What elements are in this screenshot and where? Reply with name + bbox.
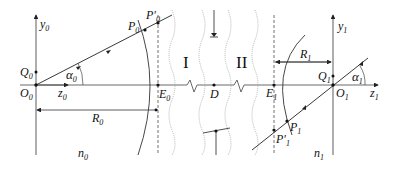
label-O0: O0 (20, 86, 33, 102)
P1-point (285, 119, 288, 122)
ray-image-side (252, 58, 368, 150)
Q0-point (35, 71, 38, 74)
P0-point (143, 28, 146, 31)
label-E0: E0 (158, 87, 170, 103)
label-z0: z0 (57, 86, 67, 102)
optical-diagram: y0 Q0 O0 z0 α0 P0 P′0 E0 R0 n0 I II D E1… (0, 0, 396, 170)
label-z1: z1 (369, 86, 379, 102)
label-alpha0: α0 (66, 67, 77, 84)
stop-arrowhead-top (211, 33, 217, 37)
wavy-boundaries (169, 10, 258, 155)
R0-end-point (155, 109, 158, 112)
ray-arrow-2 (106, 50, 111, 54)
stop-point-bottom (214, 129, 217, 132)
label-P1: P1 (289, 120, 301, 136)
label-R1: R1 (299, 47, 311, 63)
label-y1: y1 (337, 19, 347, 35)
Q1-point (332, 75, 335, 78)
label-region-I: I (183, 53, 189, 72)
ray-arrow-3 (302, 105, 306, 110)
entrance-sphere (138, 20, 150, 155)
label-R0: R0 (91, 111, 103, 127)
label-n0: n0 (78, 146, 88, 162)
ray-arrow-4 (359, 61, 363, 66)
diagram-canvas: y0 Q0 O0 z0 α0 P0 P′0 E0 R0 n0 I II D E1… (0, 0, 396, 170)
label-alpha1: α1 (352, 69, 363, 86)
label-D: D (209, 87, 219, 101)
label-P0prime: P′0 (145, 8, 160, 24)
label-n1: n1 (314, 146, 324, 162)
label-Q1: Q1 (318, 69, 331, 85)
O1-point (331, 83, 334, 86)
label-E1: E1 (265, 86, 277, 102)
O0-point (34, 83, 37, 86)
label-P0: P0 (127, 19, 139, 35)
label-P1prime: P′1 (275, 132, 290, 148)
ray-object-side (36, 15, 172, 85)
label-O1: O1 (336, 86, 349, 102)
label-region-II: II (236, 53, 248, 72)
label-y0: y0 (39, 17, 49, 33)
label-Q0: Q0 (20, 65, 33, 81)
